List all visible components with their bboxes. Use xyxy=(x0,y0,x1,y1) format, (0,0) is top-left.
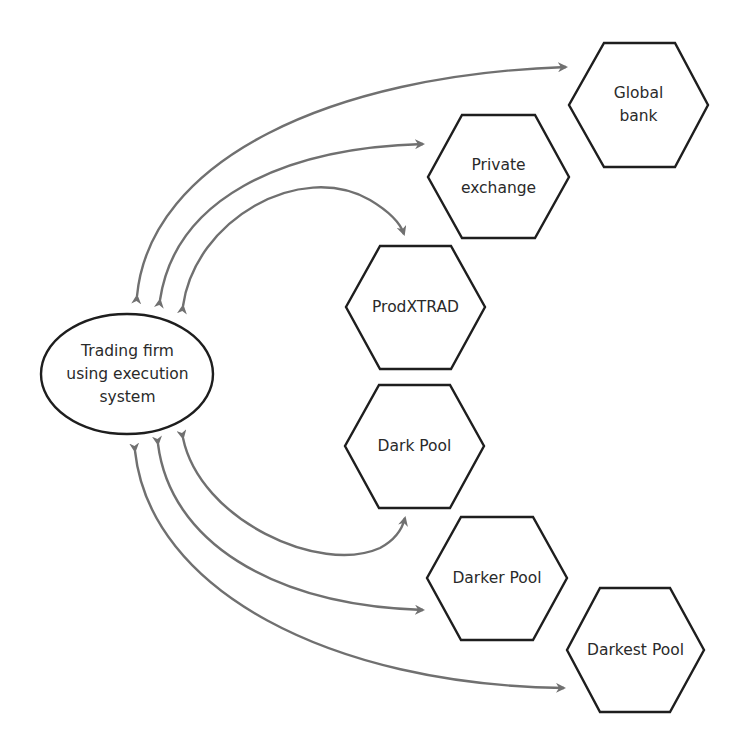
prodxtrad-label: ProdXTRAD xyxy=(346,246,485,369)
prodxtrad-line-1: ProdXTRAD xyxy=(372,296,459,319)
darkest-pool-line-1: Darkest Pool xyxy=(587,639,684,662)
private-exchange-label: Private exchange xyxy=(428,115,569,238)
darker-pool-label: Darker Pool xyxy=(427,517,567,640)
trading-firm-label: Trading firm using execution system xyxy=(41,314,214,435)
darkest-pool-label: Darkest Pool xyxy=(567,588,704,712)
global-bank-line-1: Global xyxy=(614,82,663,105)
global-bank-line-2: bank xyxy=(619,105,657,128)
trading-firm-line-2: using execution xyxy=(66,363,188,386)
darker-pool-line-1: Darker Pool xyxy=(452,567,541,590)
trading-firm-line-1: Trading firm xyxy=(81,340,174,363)
dark-pool-line-1: Dark Pool xyxy=(378,435,452,458)
dark-pool-label: Dark Pool xyxy=(345,385,484,508)
private-exchange-line-2: exchange xyxy=(461,177,536,200)
trading-firm-line-3: system xyxy=(99,386,155,409)
private-exchange-line-1: Private xyxy=(471,154,525,177)
global-bank-label: Global bank xyxy=(569,43,708,167)
